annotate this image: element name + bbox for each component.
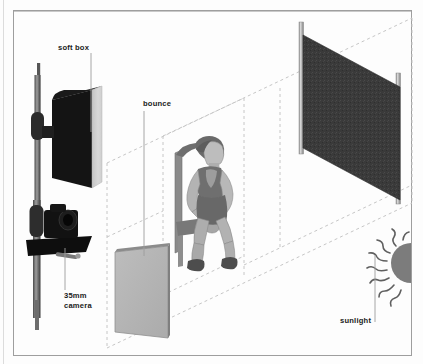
label-soft-box: soft box	[58, 43, 89, 53]
label-35mm-camera: 35mm camera	[64, 291, 92, 311]
bounce-card	[115, 243, 170, 338]
label-bounce: bounce	[143, 99, 171, 109]
diagram-canvas: soft box bounce 35mm camera sunlight	[0, 0, 423, 364]
label-sunlight: sunlight	[340, 316, 371, 326]
